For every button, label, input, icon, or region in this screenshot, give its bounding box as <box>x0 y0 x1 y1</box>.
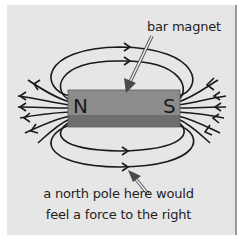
arrow-head-icon <box>128 170 141 182</box>
south-pole-label: S <box>163 94 176 118</box>
force-note-line-2: feel a force to the right <box>0 204 237 225</box>
field-line-bottom-outer <box>51 125 194 167</box>
arrow-left-icon <box>214 92 220 100</box>
north-pole-label: N <box>73 94 88 118</box>
pointer-arrow-magnet <box>124 36 152 93</box>
force-note: a north pole here would feel a force to … <box>0 183 237 225</box>
force-note-line-1: a north pole here would <box>0 183 237 204</box>
bar-magnet-label: bar magnet <box>147 19 221 34</box>
